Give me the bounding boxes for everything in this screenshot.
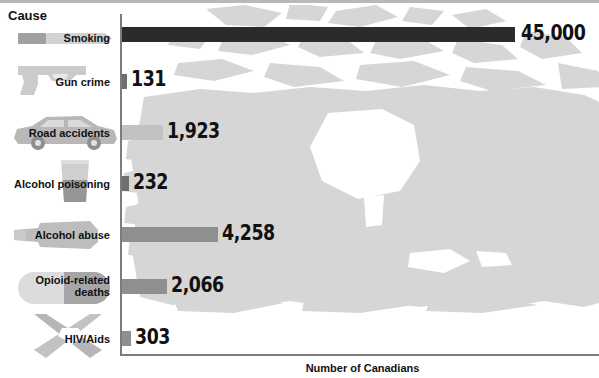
bar-hiv-aids <box>122 331 131 346</box>
value-label-smoking: 45,000 <box>521 23 585 44</box>
bar-alcohol-abuse <box>122 227 218 242</box>
category-label-alcohol-poisoning: Alcohol poisoning <box>2 178 110 190</box>
bar-road-accidents <box>122 125 163 140</box>
bar-alcohol-poisoning <box>122 176 129 191</box>
value-label-alcohol-poisoning: 232 <box>133 172 168 193</box>
category-label-smoking: Smoking <box>22 32 110 44</box>
value-label-hiv-aids: 303 <box>135 327 170 348</box>
category-label-gun-crime: Gun crime <box>22 76 110 88</box>
x-axis-title: Number of Canadians <box>0 362 599 374</box>
x-axis-title-text: Number of Canadians <box>306 362 420 374</box>
bar-opioid-deaths <box>122 279 167 294</box>
category-label-alcohol-abuse: Alcohol abuse <box>14 229 110 241</box>
category-label-road-accidents: Road accidents <box>10 127 110 139</box>
value-label-gun-crime: 131 <box>131 69 166 90</box>
infographic-chart: Cause <box>0 0 599 378</box>
bar-gun-crime <box>122 74 127 89</box>
value-label-alcohol-abuse: 4,258 <box>222 223 275 244</box>
bar-smoking <box>122 27 515 42</box>
value-label-road-accidents: 1,923 <box>167 121 220 142</box>
category-label-opioid-deaths: Opioid-related deaths <box>18 274 110 298</box>
category-label-hiv-aids: HIV/Aids <box>22 333 110 345</box>
value-label-opioid-deaths: 2,066 <box>171 275 224 296</box>
